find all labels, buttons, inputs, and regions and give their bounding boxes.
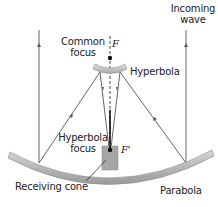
label-line: Common [56, 36, 110, 47]
label-line: wave [166, 14, 218, 25]
label-line: Hyperbola [56, 132, 110, 143]
hyperbola-label: Hyperbola [130, 66, 180, 77]
parabola-label: Parabola [160, 185, 202, 196]
label-line: focus [56, 47, 110, 58]
focus-F-prime-label: F' [121, 144, 130, 155]
right-secondary-ray [111, 72, 120, 148]
arrow-up-icon [37, 43, 41, 47]
label-line: focus [56, 143, 110, 154]
hyperbola-mirror [93, 64, 127, 74]
label-line: Incoming [166, 3, 218, 14]
hyperbola-focus-label: Hyperbola focus [56, 132, 110, 154]
focus-F-label: F [112, 38, 119, 49]
incoming-wave-label: Incoming wave [166, 3, 218, 25]
receiving-cone-label: Receiving cone [15, 181, 88, 192]
common-focus-label: Common focus [56, 36, 110, 58]
cassegrain-diagram [0, 0, 218, 207]
arrow-up-icon [184, 43, 188, 47]
